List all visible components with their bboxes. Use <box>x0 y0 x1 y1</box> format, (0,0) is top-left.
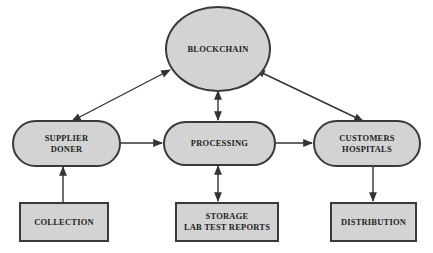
node-storage-lab-test-reports-label: STORAGE LAB TEST REPORTS <box>184 211 270 233</box>
node-blockchain: BLOCKCHAIN <box>165 6 271 92</box>
node-collection: COLLECTION <box>19 202 109 242</box>
node-blockchain-label: BLOCKCHAIN <box>187 44 248 55</box>
node-processing: PROCESSING <box>163 121 276 166</box>
edge-blockchain-supplier <box>72 70 170 121</box>
node-distribution: DISTRIBUTION <box>330 202 417 242</box>
node-collection-label: COLLECTION <box>34 217 94 228</box>
blockchain-flow-diagram: BLOCKCHAIN SUPPLIER DONER PROCESSING CUS… <box>0 0 433 253</box>
node-storage-lab-test-reports: STORAGE LAB TEST REPORTS <box>175 202 279 242</box>
node-distribution-label: DISTRIBUTION <box>341 217 406 228</box>
node-processing-label: PROCESSING <box>191 138 248 149</box>
node-supplier-doner-label: SUPPLIER DONER <box>45 133 89 155</box>
node-supplier-doner: SUPPLIER DONER <box>12 120 121 167</box>
node-customers-hospitals-label: CUSTOMERS HOSPITALS <box>339 133 395 155</box>
edge-blockchain-customers <box>256 70 363 121</box>
node-customers-hospitals: CUSTOMERS HOSPITALS <box>313 120 421 167</box>
